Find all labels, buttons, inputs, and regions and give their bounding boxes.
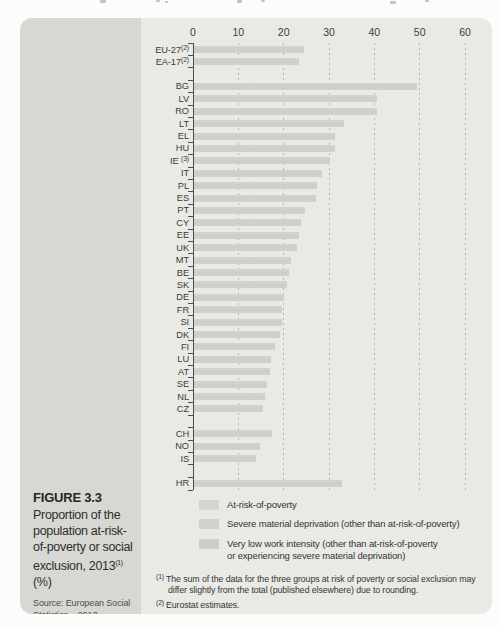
- print-artifact: [261, 0, 265, 2]
- country-label: PT: [177, 205, 189, 215]
- footnote-marker: (2): [156, 599, 164, 606]
- bar: [194, 368, 270, 375]
- bar: [194, 244, 297, 251]
- country-label: CZ: [177, 404, 189, 414]
- figure-card: FIGURE 3.3 Proportion of the population …: [20, 18, 492, 614]
- country-row: RO: [194, 105, 465, 117]
- bar: [194, 381, 267, 388]
- country-row: LT: [194, 117, 465, 129]
- x-axis-tick-label: 40: [368, 26, 380, 38]
- country-label: MT: [176, 255, 189, 265]
- plot-rows: EU-27(2)EA-17(2)BGLVROLTELHUIE (3)ITPLES…: [193, 43, 465, 490]
- country-label: HU: [176, 143, 189, 153]
- bar: [194, 182, 317, 189]
- country-label: NO: [175, 441, 189, 451]
- figure-title-note: (1): [115, 559, 122, 566]
- figure-title-line: of-poverty or social: [33, 539, 137, 555]
- bar: [194, 120, 344, 127]
- bar: [194, 195, 316, 202]
- bar: [194, 294, 284, 301]
- country-label: EA-17(2): [156, 56, 189, 67]
- source-line: Source: European Social: [33, 597, 137, 609]
- caption-panel: FIGURE 3.3 Proportion of the population …: [20, 18, 141, 614]
- bar: [194, 480, 342, 487]
- country-label: SE: [177, 379, 189, 389]
- legend-label: Severe material deprivation (other than …: [227, 518, 459, 531]
- footnote: (3)2010 data.: [156, 612, 492, 614]
- country-row: NO: [194, 440, 465, 452]
- legend-item: At-risk-of-poverty: [199, 499, 492, 512]
- bar: [194, 281, 287, 288]
- x-axis-tick-label: 0: [190, 26, 196, 38]
- country-label: SK: [177, 280, 189, 290]
- bar: [194, 257, 291, 264]
- country-note: (2): [181, 44, 189, 51]
- country-row: BG: [194, 80, 465, 92]
- source-note: Source: European Social Statistics – 201…: [33, 597, 137, 614]
- bar: [194, 269, 289, 276]
- country-row: HR: [194, 477, 465, 489]
- bar: [194, 207, 305, 214]
- country-row: LU: [194, 353, 465, 365]
- page-root: { "figure": { "number": "FIGURE 3.3", "t…: [0, 0, 499, 626]
- country-label: NL: [177, 392, 189, 402]
- print-artifact: [165, 1, 168, 3]
- bar: [194, 95, 377, 102]
- country-row: MT: [194, 254, 465, 266]
- country-row: IE (3): [194, 155, 465, 167]
- x-axis-tick-label: 10: [232, 26, 244, 38]
- country-label: DE: [176, 292, 189, 302]
- country-label: EE: [177, 230, 189, 240]
- country-note: (3): [181, 155, 189, 162]
- country-label: ES: [177, 193, 189, 203]
- bar: [194, 170, 322, 177]
- bar: [194, 405, 263, 412]
- country-label: FI: [181, 342, 189, 352]
- country-label: LT: [179, 119, 189, 129]
- country-row: EE: [194, 229, 465, 241]
- figure-number: FIGURE 3.3: [33, 490, 137, 505]
- x-axis: 0102030405060: [193, 26, 465, 35]
- bar: [194, 108, 377, 115]
- country-label: HR: [176, 478, 189, 488]
- country-label: SI: [180, 317, 189, 327]
- country-label: PL: [178, 181, 189, 191]
- bar: [194, 232, 299, 239]
- x-axis-tick-label: 30: [323, 26, 335, 38]
- country-label: CH: [176, 429, 189, 439]
- country-row: UK: [194, 242, 465, 254]
- footnote: (2)Eurostat estimates.: [156, 597, 492, 612]
- country-label: IT: [181, 168, 189, 178]
- country-row: CZ: [194, 403, 465, 415]
- figure-title-line: Proportion of the: [33, 507, 137, 523]
- country-row: SI: [194, 316, 465, 328]
- country-row: SK: [194, 279, 465, 291]
- print-artifact: [100, 0, 106, 3]
- country-row: FI: [194, 341, 465, 353]
- print-artifact: [425, 0, 429, 2]
- figure-title-line: population at-risk-: [33, 523, 137, 539]
- plot-area: EU-27(2)EA-17(2)BGLVROLTELHUIE (3)ITPLES…: [193, 43, 465, 490]
- bar: [194, 331, 280, 338]
- country-label: IE (3): [170, 155, 189, 166]
- country-row: NL: [194, 390, 465, 402]
- source-line: Statistics – 2013. Available from: [33, 609, 137, 614]
- figure-title: Proportion of the population at-risk- of…: [33, 507, 137, 590]
- bar: [194, 455, 256, 462]
- country-row: PL: [194, 179, 465, 191]
- country-row: EL: [194, 130, 465, 142]
- bar: [194, 306, 282, 313]
- bar: [194, 58, 299, 65]
- spacer-row: [194, 465, 465, 477]
- x-axis-tick-label: 20: [278, 26, 290, 38]
- print-artifact: [390, 1, 396, 4]
- country-row: HU: [194, 142, 465, 154]
- country-label: LU: [177, 354, 189, 364]
- footnotes: (1)The sum of the data for the three gro…: [156, 571, 492, 614]
- legend-swatch: [199, 519, 219, 529]
- footnote: (1)The sum of the data for the three gro…: [156, 571, 492, 598]
- country-row: EU-27(2): [194, 43, 465, 55]
- spacer-row: [194, 68, 465, 80]
- country-note: (2): [181, 56, 189, 63]
- legend-item: Severe material deprivation (other than …: [199, 518, 492, 531]
